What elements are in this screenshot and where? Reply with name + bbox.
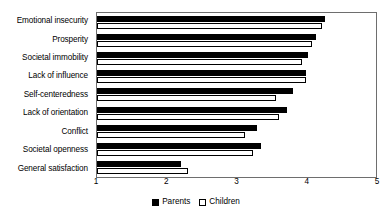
- x-tick-label: 3: [234, 178, 239, 186]
- legend-entry: Parents: [152, 198, 190, 206]
- category-label: Societal immobility: [0, 49, 92, 67]
- category-label: Lack of orientation: [0, 104, 92, 122]
- bar-children: [97, 41, 312, 47]
- chart-legend: ParentsChildren: [0, 198, 392, 206]
- bar-parents: [97, 52, 308, 58]
- bar-children: [97, 23, 322, 29]
- bar-children: [97, 59, 302, 65]
- bar-group: [97, 104, 376, 122]
- bar-children: [97, 77, 306, 83]
- bar-parents: [97, 125, 257, 131]
- category-axis: Emotional insecurityProsperitySocietal i…: [0, 12, 92, 178]
- category-label: Self-centeredness: [0, 86, 92, 104]
- legend-label: Parents: [162, 198, 190, 206]
- bar-parents: [97, 16, 325, 22]
- bar-parents: [97, 70, 306, 76]
- outline-square-icon: [199, 199, 206, 206]
- bar-group: [97, 68, 376, 86]
- x-tick-label: 1: [94, 178, 99, 186]
- category-label: General satisfaction: [0, 160, 92, 178]
- bar-group: [97, 49, 376, 67]
- bar-parents: [97, 143, 261, 149]
- bar-parents: [97, 88, 293, 94]
- category-label: Emotional insecurity: [0, 12, 92, 30]
- category-label: Conflict: [0, 123, 92, 141]
- horizontal-bar-chart: Emotional insecurityProsperitySocietal i…: [0, 0, 392, 221]
- bar-children: [97, 132, 245, 138]
- bar-children: [97, 150, 253, 156]
- bar-children: [97, 114, 279, 120]
- x-tick-label: 2: [164, 178, 169, 186]
- bar-children: [97, 168, 188, 174]
- value-axis: 12345: [96, 178, 377, 192]
- bar-parents: [97, 161, 181, 167]
- bar-group: [97, 13, 376, 31]
- bar-parents: [97, 34, 316, 40]
- plot-area: [96, 12, 377, 178]
- filled-square-icon: [152, 199, 159, 206]
- bar-children: [97, 95, 276, 101]
- bar-group: [97, 141, 376, 159]
- category-label: Prosperity: [0, 30, 92, 48]
- category-label: Societal openness: [0, 141, 92, 159]
- bar-group: [97, 159, 376, 177]
- x-tick-label: 5: [375, 178, 380, 186]
- legend-entry: Children: [199, 198, 240, 206]
- bar-group: [97, 86, 376, 104]
- bars-layer: [97, 13, 376, 177]
- bar-parents: [97, 107, 287, 113]
- x-tick-label: 4: [304, 178, 309, 186]
- bar-group: [97, 122, 376, 140]
- bar-group: [97, 31, 376, 49]
- legend-label: Children: [209, 198, 240, 206]
- category-label: Lack of influence: [0, 67, 92, 85]
